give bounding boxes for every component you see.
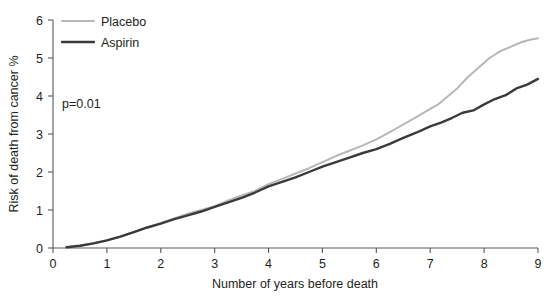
y-tick-label-1: 1 (36, 204, 43, 218)
y-tick-label-0: 0 (36, 242, 43, 256)
chart-canvas: 0123456 Risk of death from cancer % 0123… (0, 0, 551, 297)
y-tick-label-4: 4 (36, 90, 43, 104)
data-series-group (66, 38, 538, 247)
x-tick-label-6: 6 (373, 257, 380, 271)
y-axis: 0123456 Risk of death from cancer % (7, 14, 53, 256)
y-tick-label-6: 6 (36, 14, 43, 28)
legend-label-aspirin: Aspirin (101, 36, 139, 50)
y-axis-tick-labels: 0123456 (36, 14, 43, 256)
y-axis-ticks (48, 20, 53, 248)
x-tick-label-4: 4 (265, 257, 272, 271)
legend: Placebo Aspirin (62, 15, 146, 50)
x-tick-label-1: 1 (103, 257, 110, 271)
x-axis-tick-labels: 0123456789 (50, 257, 542, 271)
y-tick-label-5: 5 (36, 52, 43, 66)
x-tick-label-2: 2 (157, 257, 164, 271)
y-tick-label-2: 2 (36, 166, 43, 180)
x-tick-label-8: 8 (481, 257, 488, 271)
x-axis-ticks (53, 248, 538, 253)
y-tick-label-3: 3 (36, 128, 43, 142)
x-tick-label-9: 9 (535, 257, 542, 271)
x-axis: 0123456789 Number of years before death (50, 248, 542, 291)
legend-label-placebo: Placebo (101, 15, 146, 29)
y-axis-title: Risk of death from cancer % (7, 55, 21, 212)
p-value-annotation: p=0.01 (62, 97, 101, 111)
x-tick-label-5: 5 (319, 257, 326, 271)
series-line-placebo (66, 38, 538, 247)
x-axis-title: Number of years before death (212, 277, 378, 291)
x-tick-label-7: 7 (427, 257, 434, 271)
series-line-aspirin (66, 79, 538, 247)
chart-container: 0123456 Risk of death from cancer % 0123… (0, 0, 551, 297)
x-tick-label-3: 3 (211, 257, 218, 271)
x-tick-label-0: 0 (50, 257, 57, 271)
